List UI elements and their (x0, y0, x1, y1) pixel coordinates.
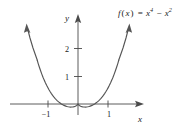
y-axis-label: y (64, 13, 69, 23)
y-axis-arrowhead (75, 14, 81, 23)
graph-canvas: y x 2 1 −1 1 (0, 0, 194, 137)
equation-equals: = (137, 8, 144, 18)
x-tick-label-1: 1 (107, 110, 111, 119)
curve-left-arm (28, 31, 37, 60)
equation-close-paren: ) (130, 8, 135, 18)
x-tick-label-neg1: −1 (42, 110, 51, 119)
y-axis (75, 14, 81, 115)
curve-right-arrowhead (126, 24, 133, 33)
curve-left-arrowhead (24, 24, 31, 33)
equation-arg: x (126, 8, 130, 18)
x-axis-label: x (137, 114, 142, 124)
equation-term1-exponent: 4 (150, 6, 153, 13)
function-graph-figure: y x 2 1 −1 1 f(x) = x4 − x2 (0, 0, 194, 137)
curve-right-arm (119, 31, 128, 60)
function-equation: f(x) = x4 − x2 (118, 8, 172, 19)
y-tick-label-2: 2 (65, 45, 69, 54)
equation-term2-exponent: 2 (169, 6, 172, 13)
x-axis (10, 101, 144, 107)
equation-operator: − (155, 8, 162, 18)
y-tick-label-1: 1 (65, 73, 69, 82)
